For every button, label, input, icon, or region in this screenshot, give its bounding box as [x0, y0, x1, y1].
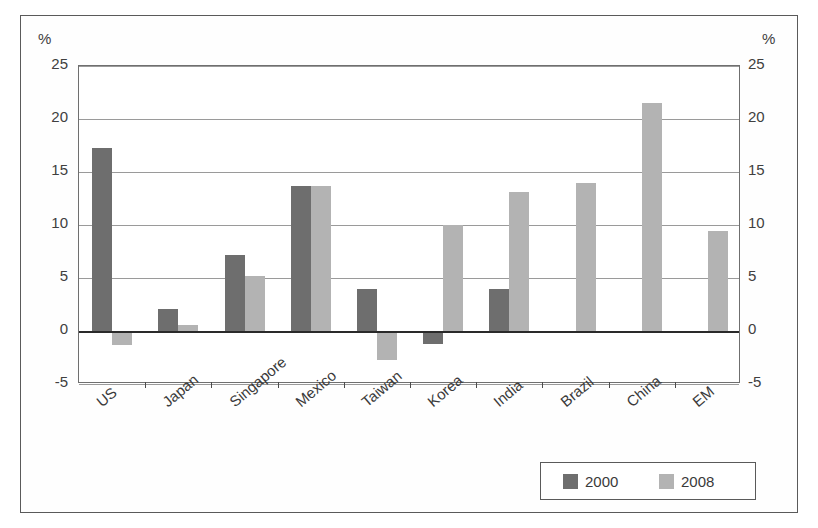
y-axis-tick-right-0: 0 [748, 320, 788, 337]
x-axis-tick [344, 382, 345, 388]
chart-legend: 2000 2008 [540, 462, 756, 500]
x-axis-tick [145, 382, 146, 388]
x-axis-tick [278, 382, 279, 388]
y-axis-tick-left-0: 0 [28, 320, 68, 337]
x-axis-tick [476, 382, 477, 388]
y-axis-tick-left-25: 25 [28, 55, 68, 72]
legend-label-2000: 2000 [585, 473, 618, 490]
y-axis-tick-right-10: 10 [748, 214, 788, 231]
x-axis-tick [542, 382, 543, 388]
x-axis-tick [410, 382, 411, 388]
x-axis-ticks [79, 66, 739, 382]
y-axis-tick-right-20: 20 [748, 108, 788, 125]
legend-swatch-2008 [659, 474, 674, 489]
y-axis-tick-right-25: 25 [748, 55, 788, 72]
legend-entry-2000: 2000 [563, 473, 618, 490]
y-axis-tick-left-5: 5 [28, 267, 68, 284]
y-axis-tick-left-10: 10 [28, 214, 68, 231]
legend-swatch-2000 [563, 474, 578, 489]
y-axis-unit-left: % [38, 30, 52, 47]
x-axis-tick [609, 382, 610, 388]
legend-entry-2008: 2008 [659, 473, 714, 490]
x-axis-tick [675, 382, 676, 388]
legend-label-2008: 2008 [681, 473, 714, 490]
y-axis-tick-right-5: 5 [748, 267, 788, 284]
y-axis-tick-right-15: 15 [748, 161, 788, 178]
plot-area [78, 65, 740, 383]
y-axis-tick-right--5: -5 [748, 373, 788, 390]
chart-figure: % % 25252020151510105500-5-5 USJapanSing… [0, 0, 818, 528]
x-axis-tick [211, 382, 212, 388]
y-axis-tick-left-20: 20 [28, 108, 68, 125]
y-axis-tick-left--5: -5 [28, 373, 68, 390]
y-axis-unit-right: % [762, 30, 776, 47]
y-axis-tick-left-15: 15 [28, 161, 68, 178]
